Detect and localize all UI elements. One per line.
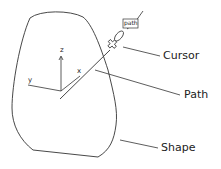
path-leader [95,70,180,95]
z-axis-label: z [60,46,64,54]
shape-outline [12,12,117,157]
tag-label: path [124,19,138,26]
y-axis-label: y [28,76,32,84]
path-line [60,50,110,99]
x-axis-label: x [77,67,81,75]
shape-leader [120,140,158,148]
cursor-label: Cursor [163,49,199,62]
cursor-leader [123,47,160,56]
shape-label: Shape [161,141,195,154]
path-label: Path [184,88,208,101]
cursor-ellipse-icon [113,29,125,42]
y-axis [28,85,61,91]
